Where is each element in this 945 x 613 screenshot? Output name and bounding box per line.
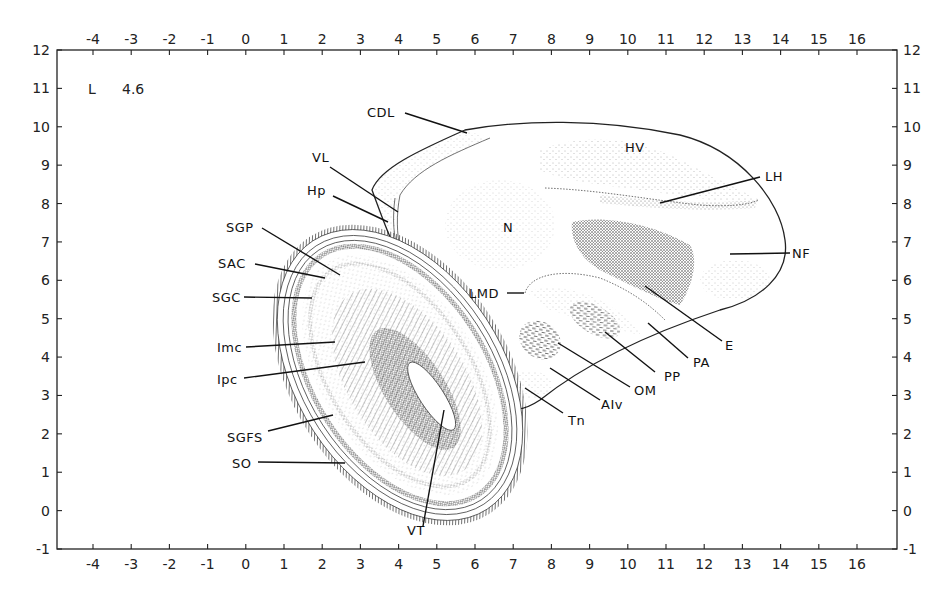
label-sgc: SGC — [212, 290, 241, 305]
x-tick-label-bottom: 5 — [432, 556, 441, 572]
x-tick-label-bottom: 12 — [695, 556, 713, 572]
label-pp: PP — [664, 369, 681, 384]
x-tick-label-top: 0 — [241, 31, 250, 47]
section-letter: L — [88, 81, 96, 97]
x-tick-label-top: 13 — [733, 31, 751, 47]
y-tick-label-right: 3 — [903, 387, 912, 403]
y-tick-label-right: 8 — [903, 196, 912, 212]
x-tick-label-bottom: 8 — [547, 556, 556, 572]
x-tick-label-top: 9 — [585, 31, 594, 47]
x-tick-label-bottom: 1 — [280, 556, 289, 572]
y-tick-label-right: 4 — [903, 349, 912, 365]
x-tick-label-top: -4 — [86, 31, 100, 47]
y-tick-label-left: 1 — [41, 464, 50, 480]
y-tick-label-right: 0 — [903, 503, 912, 519]
x-tick-label-top: 14 — [772, 31, 790, 47]
x-tick-label-bottom: 13 — [733, 556, 751, 572]
x-tick-label-top: 4 — [394, 31, 403, 47]
x-tick-label-bottom: 7 — [509, 556, 518, 572]
label-hv: HV — [625, 140, 645, 155]
label-pa: PA — [693, 355, 710, 370]
y-tick-label-left: 6 — [41, 272, 50, 288]
label-nf: NF — [792, 246, 810, 261]
x-tick-label-bottom: 16 — [848, 556, 866, 572]
atlas-plate: -4-3-2-1012345678910111213141516 -4-3-2-… — [0, 0, 945, 613]
x-tick-label-top: -3 — [124, 31, 138, 47]
y-tick-label-left: 7 — [41, 234, 50, 250]
x-tick-label-top: 6 — [471, 31, 480, 47]
y-tick-label-right: 11 — [903, 80, 921, 96]
om-region — [512, 313, 569, 368]
x-tick-label-top: 15 — [810, 31, 828, 47]
x-tick-label-top: -1 — [201, 31, 215, 47]
x-tick-label-bottom: -4 — [86, 556, 100, 572]
y-tick-label-left: 2 — [41, 426, 50, 442]
x-tick-label-bottom: 9 — [585, 556, 594, 572]
x-tick-label-top: 10 — [619, 31, 637, 47]
x-tick-label-top: 16 — [848, 31, 866, 47]
x-tick-label-top: 1 — [280, 31, 289, 47]
x-tick-label-bottom: 0 — [241, 556, 250, 572]
y-tick-label-left: 8 — [41, 196, 50, 212]
x-tick-label-top: 8 — [547, 31, 556, 47]
x-axis-bottom: -4-3-2-1012345678910111213141516 — [86, 544, 866, 572]
label-lmd: LMD — [469, 286, 499, 301]
x-tick-label-top: -2 — [162, 31, 176, 47]
y-tick-label-right: 7 — [903, 234, 912, 250]
x-tick-label-top: 11 — [657, 31, 675, 47]
x-tick-label-bottom: 6 — [471, 556, 480, 572]
x-tick-label-bottom: 14 — [772, 556, 790, 572]
x-tick-label-bottom: -1 — [201, 556, 215, 572]
x-tick-label-bottom: 3 — [356, 556, 365, 572]
label-so: SO — [232, 456, 251, 471]
label-sgp: SGP — [226, 220, 254, 235]
y-tick-label-right: 6 — [903, 272, 912, 288]
label-sac: SAC — [218, 256, 246, 271]
label-e: E — [725, 338, 734, 353]
y-tick-label-left: -1 — [36, 541, 50, 557]
x-tick-label-bottom: 15 — [810, 556, 828, 572]
y-tick-label-left: 5 — [41, 311, 50, 327]
label-ipc: Ipc — [217, 372, 238, 387]
label-vt: VT — [407, 523, 425, 538]
y-tick-label-right: 1 — [903, 464, 912, 480]
label-om: OM — [634, 383, 656, 398]
x-tick-label-bottom: 11 — [657, 556, 675, 572]
label-lh: LH — [765, 169, 783, 184]
section-value: 4.6 — [122, 81, 144, 97]
y-tick-label-left: 10 — [32, 119, 50, 135]
label-vl: VL — [312, 150, 329, 165]
x-tick-label-top: 2 — [318, 31, 327, 47]
label-hp: Hp — [307, 183, 326, 198]
nf-region — [700, 260, 770, 300]
y-tick-label-left: 9 — [41, 157, 50, 173]
hv-region — [540, 140, 760, 202]
y-tick-label-right: 12 — [903, 42, 921, 58]
y-tick-label-left: 4 — [41, 349, 50, 365]
x-tick-label-bottom: -2 — [162, 556, 176, 572]
nidopallium-stipple — [445, 180, 555, 270]
x-tick-label-top: 5 — [432, 31, 441, 47]
label-n: N — [503, 220, 513, 235]
y-tick-label-right: 5 — [903, 311, 912, 327]
x-tick-label-bottom: 4 — [394, 556, 403, 572]
y-tick-label-right: 10 — [903, 119, 921, 135]
x-tick-label-top: 12 — [695, 31, 713, 47]
label-tn: Tn — [567, 413, 585, 428]
x-tick-label-bottom: -3 — [124, 556, 138, 572]
y-tick-label-left: 0 — [41, 503, 50, 519]
label-sgfs: SGFS — [227, 430, 263, 445]
label-imc: Imc — [217, 340, 242, 355]
x-tick-label-bottom: 10 — [619, 556, 637, 572]
y-tick-label-right: 9 — [903, 157, 912, 173]
x-tick-label-top: 7 — [509, 31, 518, 47]
y-tick-label-right: -1 — [903, 541, 917, 557]
entopallium-region — [572, 219, 694, 305]
y-tick-label-right: 2 — [903, 426, 912, 442]
label-cdl: CDL — [367, 105, 395, 120]
y-tick-label-left: 11 — [32, 80, 50, 96]
y-axis-right: 1211109876543210-1 — [892, 42, 921, 557]
label-aiv: AIv — [601, 397, 623, 412]
x-axis-top: -4-3-2-1012345678910111213141516 — [86, 31, 866, 55]
y-tick-label-left: 12 — [32, 42, 50, 58]
